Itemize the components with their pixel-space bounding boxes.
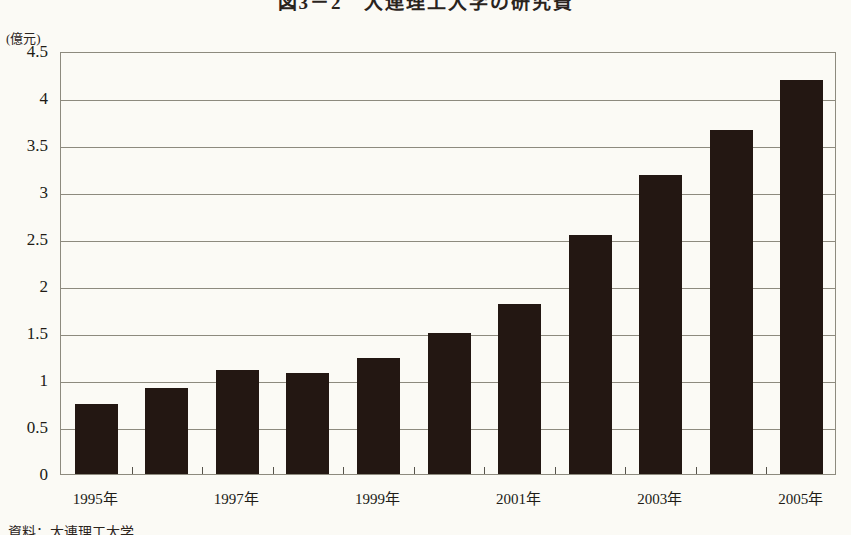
x-axis-tick — [696, 467, 697, 474]
bar — [145, 388, 188, 474]
y-axis-tick-label: 4 — [2, 89, 48, 109]
x-axis-tick — [766, 467, 767, 474]
bar — [357, 358, 400, 474]
y-axis-tick-label: 2 — [2, 277, 48, 297]
x-axis-tick-label: 2001年 — [496, 487, 541, 508]
bar — [639, 175, 682, 474]
chart-title: 図3－2 大連理工大学の研究費 — [0, 0, 851, 14]
bar — [216, 370, 259, 474]
bar — [75, 404, 118, 474]
y-axis-unit-label: (億元) — [6, 28, 41, 47]
x-axis-tick — [414, 467, 415, 474]
bar — [498, 304, 541, 474]
y-axis-tick-label: 3 — [2, 183, 48, 203]
x-axis-tick-label: 1999年 — [355, 487, 400, 508]
gridline — [61, 100, 835, 101]
x-axis-tick — [484, 467, 485, 474]
y-axis-tick-label: 3.5 — [2, 136, 48, 156]
source-note: 資料：大連理工大学 — [8, 521, 134, 535]
y-axis-tick-label: 2.5 — [2, 230, 48, 250]
x-axis-tick-label: 1997年 — [214, 487, 259, 508]
y-axis-tick-label: 0 — [2, 465, 48, 485]
bar — [780, 80, 823, 474]
y-axis-tick-label: 0.5 — [2, 418, 48, 438]
plot-area — [60, 52, 836, 475]
bar — [710, 130, 753, 474]
x-axis-tick-label: 2003年 — [637, 487, 682, 508]
x-axis-tick — [343, 467, 344, 474]
x-axis-tick-label: 1995年 — [73, 487, 118, 508]
x-axis-tick — [132, 467, 133, 474]
bar — [286, 373, 329, 474]
x-axis-tick — [202, 467, 203, 474]
x-axis-tick — [555, 467, 556, 474]
bar — [428, 333, 471, 474]
y-axis-tick-label: 1.5 — [2, 324, 48, 344]
x-axis-tick — [273, 467, 274, 474]
figure-container: 図3－2 大連理工大学の研究費 (億元) 00.511.522.533.544.… — [0, 0, 851, 535]
x-axis-tick-label: 2005年 — [778, 487, 823, 508]
y-axis-tick-label: 1 — [2, 371, 48, 391]
x-axis-tick — [625, 467, 626, 474]
bar — [569, 235, 612, 474]
